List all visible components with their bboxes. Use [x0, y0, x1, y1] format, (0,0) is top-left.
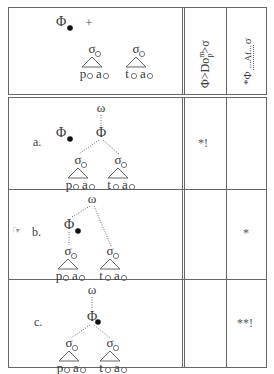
- cand-b-seg-0-0-ring-icon: [63, 275, 68, 280]
- cand-b-seg-0-0: p: [56, 268, 63, 283]
- cand-c-foot-sigma1-line: [71, 325, 90, 338]
- constraint-1-sub: p: [205, 54, 214, 58]
- cand-a-sigma-0-mora-icon: [81, 162, 86, 167]
- candidate-b-label: b.: [32, 225, 41, 240]
- violation-c-c2: **!: [237, 316, 253, 331]
- cand-c-foot-dot-icon: [95, 319, 101, 325]
- cand-a-floating-foot: Φ: [56, 125, 66, 140]
- input-seg-0-1-ring-icon: [103, 73, 108, 78]
- cand-c-seg-1-1: a: [114, 360, 120, 374]
- input-seg-1-1: a: [140, 66, 146, 81]
- cand-a-seg-0-0: p: [66, 177, 73, 192]
- input-seg-1-0-ring-icon: [131, 73, 136, 78]
- constraint-header-1: Φ>Domp>σ: [197, 40, 214, 88]
- constraint-2-mid: Af: [243, 52, 253, 62]
- cand-b-sigma-1-mora-icon: [113, 253, 118, 258]
- constraint-1-label: Φ>Do: [198, 58, 212, 88]
- cand-b-seg-0-1-ring-icon: [79, 275, 84, 280]
- input-seg-0-0: p: [80, 66, 87, 81]
- input-plus: +: [86, 16, 93, 30]
- candidate-c-label: c.: [34, 315, 42, 330]
- cand-a-omega: ω: [97, 100, 106, 115]
- cand-a-seg-0-1-ring-icon: [89, 184, 94, 189]
- cand-a-seg-0-1: a: [82, 177, 88, 192]
- constraint-2-tail: σ: [241, 38, 253, 44]
- cand-b-foot: Φ: [64, 217, 74, 232]
- cand-a-foot-sigma1-line: [79, 140, 99, 154]
- cand-a-sigma-0: σ: [74, 152, 81, 167]
- cand-c-seg-0-1-ring-icon: [80, 367, 85, 372]
- cand-c-seg-1-0-ring-icon: [105, 367, 110, 372]
- cand-c-sigma-1: σ: [106, 335, 113, 350]
- constraint-1-tail: >σ: [198, 40, 212, 53]
- cand-c-sigma-0-mora-icon: [72, 345, 77, 350]
- cand-b-sigma-0-mora-icon: [71, 253, 76, 258]
- cand-c-seg-0-0: p: [57, 360, 64, 374]
- cand-c-seg-0-1: a: [73, 360, 79, 374]
- cand-b-sigma-0: σ: [64, 243, 71, 258]
- cand-c-seg-1-0: t: [99, 360, 103, 374]
- cand-a-foot: Φ: [96, 125, 106, 140]
- cand-b-seg-1-0-ring-icon: [105, 275, 110, 280]
- cand-b-foot-dot-icon: [75, 228, 81, 234]
- input-seg-0-0-ring-icon: [87, 73, 92, 78]
- cand-b-seg-1-0: t: [99, 268, 103, 283]
- input-seg-1-0: t: [125, 66, 129, 81]
- input-sigma-1-mora-icon: [139, 51, 144, 56]
- cand-a-seg-1-0: t: [107, 177, 111, 192]
- cand-b-seg-0-1: a: [72, 268, 78, 283]
- cand-c-seg-1-1-ring-icon: [121, 367, 126, 372]
- cand-a-floating-dot-icon: [67, 136, 73, 142]
- cand-c-sigma-1-mora-icon: [113, 345, 118, 350]
- input-seg-1-1-ring-icon: [147, 73, 152, 78]
- cand-a-sigma-1: σ: [114, 152, 121, 167]
- constraint-2-label: *Φ: [241, 71, 253, 85]
- cand-a-seg-1-0-ring-icon: [113, 184, 118, 189]
- input-foot: Φ: [56, 14, 66, 29]
- constraint-header-2: *Φ ...Af...σ: [241, 38, 253, 85]
- cand-b-seg-1-1: a: [114, 268, 120, 283]
- candidate-a-label: a.: [33, 135, 41, 150]
- cand-c-omega: ω: [88, 282, 97, 297]
- input-sigma-0: σ: [88, 41, 95, 56]
- input-sigma-0-mora-icon: [95, 51, 100, 56]
- input-foot-dot-icon: [67, 25, 73, 31]
- cand-a-seg-1-1-ring-icon: [129, 184, 134, 189]
- cand-b-sigma-1: σ: [106, 243, 113, 258]
- input-seg-0-1: a: [96, 66, 102, 81]
- violation-a-c1: *!: [198, 136, 208, 151]
- cand-a-seg-0-0-ring-icon: [73, 184, 78, 189]
- violation-b-c2: *: [243, 226, 249, 241]
- cand-a-sigma-1-mora-icon: [121, 162, 126, 167]
- cand-c-sigma-0: σ: [65, 335, 72, 350]
- cand-b-seg-1-1-ring-icon: [121, 275, 126, 280]
- cand-a-seg-1-1: a: [122, 177, 128, 192]
- cand-b-omega: ω: [88, 191, 97, 206]
- cand-b-omega-sigma2-line: [94, 206, 111, 246]
- input-sigma-1: σ: [132, 41, 139, 56]
- cand-c-seg-0-0-ring-icon: [64, 367, 69, 372]
- pointing-hand-icon: ☞: [12, 224, 22, 237]
- cand-b-omega-foot-line: [72, 206, 90, 217]
